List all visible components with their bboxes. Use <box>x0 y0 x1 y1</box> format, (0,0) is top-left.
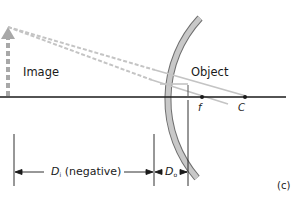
center-of-curvature-marker <box>243 95 247 99</box>
focal-point-marker <box>200 95 204 99</box>
object-distance-subscript: o <box>173 171 177 178</box>
arrow-right-icon <box>180 170 187 175</box>
image-arrowhead-icon <box>1 27 15 39</box>
focal-point-label: f <box>198 103 202 113</box>
image-distance-note: (negative) <box>65 165 122 178</box>
image-distance-subscript: i <box>59 171 61 178</box>
image-arrow <box>1 27 15 96</box>
panel-label: (c) <box>277 181 290 191</box>
arrow-right-icon <box>146 170 153 175</box>
virtual-ray-upper <box>8 27 155 70</box>
object-label: Object <box>191 67 228 79</box>
image-distance-label: Di (negative) <box>49 166 123 178</box>
convex-mirror-diagram: Image Object f C Di (negative) Do (c) <box>0 0 293 197</box>
image-label: Image <box>23 67 59 79</box>
arrow-left-icon <box>15 170 22 175</box>
object-distance-label: Do <box>164 166 178 178</box>
arrow-left-icon <box>155 170 162 175</box>
center-of-curvature-label: C <box>238 103 245 113</box>
diagram-canvas <box>0 0 293 197</box>
